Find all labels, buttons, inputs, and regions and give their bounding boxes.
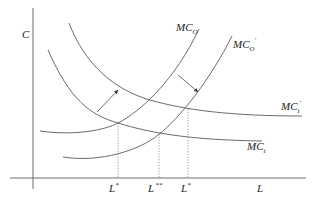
label-mc-t: MCt <box>246 140 267 155</box>
x-axis-label: L <box>256 182 263 194</box>
tick-l-star-right: L* <box>180 181 191 194</box>
tick-l-star-left: L* <box>108 181 119 194</box>
shift-arrow-mc-t <box>97 90 118 112</box>
label-mc-o-prime: MCO′ <box>232 36 257 53</box>
label-mc-t-prime: MCt′ <box>280 99 301 115</box>
tick-l-double-star: L** <box>147 181 163 194</box>
curve-mc-t-prime <box>69 23 302 116</box>
label-mc-o: MCO <box>175 21 198 36</box>
curve-mc-o-prime <box>63 36 232 158</box>
y-axis-label: C <box>22 28 30 40</box>
shift-arrow-mc-o <box>178 75 198 92</box>
curve-mc-t <box>48 50 262 141</box>
economics-diagram: C L MCO MCO′ MCt′ MCt L* L** L* <box>0 0 315 200</box>
